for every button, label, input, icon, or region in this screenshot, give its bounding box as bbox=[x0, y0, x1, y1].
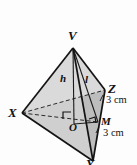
tetrahedron-drawing bbox=[0, 0, 137, 165]
geometry-figure: V X Z Y O M h l 3 cm 3 cm bbox=[0, 0, 137, 165]
vertex-label-Y: Y bbox=[86, 157, 94, 165]
segment-label-l: l bbox=[85, 74, 88, 85]
dimension-label-ZM: 3 cm bbox=[106, 95, 127, 106]
dimension-label-MY: 3 cm bbox=[103, 128, 124, 139]
vertex-label-V: V bbox=[68, 29, 77, 42]
point-label-O: O bbox=[69, 122, 77, 133]
vertex-label-X: X bbox=[8, 106, 17, 119]
segment-label-h: h bbox=[60, 73, 66, 84]
point-label-M: M bbox=[101, 116, 111, 127]
